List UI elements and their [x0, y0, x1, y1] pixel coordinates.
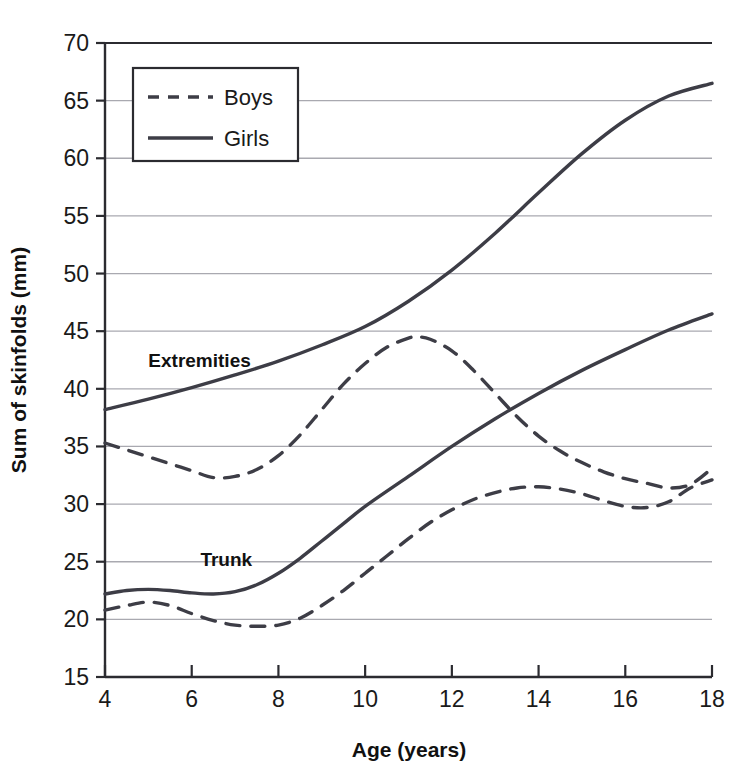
- legend-border: [133, 68, 298, 161]
- y-tick-label: 25: [63, 549, 89, 575]
- x-tick-label: 14: [526, 686, 552, 712]
- legend-label-boys: Boys: [224, 85, 273, 110]
- y-tick-label: 35: [63, 433, 89, 459]
- y-tick-label: 50: [63, 261, 89, 287]
- y-tick-label: 65: [63, 88, 89, 114]
- y-axis-title: Sum of skinfolds (mm): [7, 247, 30, 473]
- y-tick-label: 15: [63, 664, 89, 690]
- x-tick-label: 8: [272, 686, 285, 712]
- x-tick-label: 10: [352, 686, 378, 712]
- x-tick-label: 18: [699, 686, 725, 712]
- y-tick-label: 70: [63, 30, 89, 56]
- x-tick-label: 4: [99, 686, 112, 712]
- skinfolds-line-chart: 152025303540455055606570 4681012141618 A…: [0, 0, 749, 772]
- y-tick-label: 30: [63, 491, 89, 517]
- chart-background: [0, 0, 749, 772]
- x-axis-title: Age (years): [352, 738, 466, 761]
- annotation-trunk: Trunk: [200, 549, 252, 570]
- y-tick-label: 55: [63, 203, 89, 229]
- y-tick-label: 40: [63, 376, 89, 402]
- x-tick-label: 6: [185, 686, 198, 712]
- legend-label-girls: Girls: [224, 126, 269, 151]
- chart-legend: Boys Girls: [133, 68, 298, 161]
- y-tick-label: 45: [63, 318, 89, 344]
- x-tick-label: 16: [612, 686, 638, 712]
- x-tick-label: 12: [439, 686, 465, 712]
- y-tick-label: 20: [63, 606, 89, 632]
- annotation-extremities: Extremities: [148, 350, 250, 371]
- y-tick-label: 60: [63, 145, 89, 171]
- chart-container: 152025303540455055606570 4681012141618 A…: [0, 0, 749, 772]
